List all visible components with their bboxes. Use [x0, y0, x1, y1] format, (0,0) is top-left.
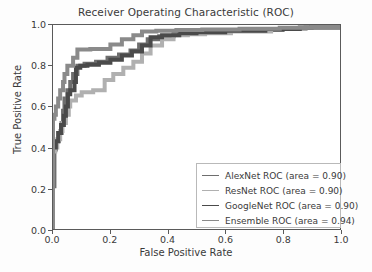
- x-tick-mark: [52, 230, 53, 234]
- chart-title: Receiver Operating Characteristic (ROC): [0, 6, 372, 18]
- y-axis-label: True Positive Rate: [12, 7, 23, 213]
- x-axis-label: False Positive Rate: [0, 247, 372, 258]
- x-tick-label: 0.8: [276, 234, 291, 245]
- x-tick-label: 0.2: [102, 234, 117, 245]
- legend-label: GoogleNet ROC (area = 0.90): [225, 201, 358, 211]
- y-tick-mark: [48, 65, 52, 66]
- y-tick-mark: [48, 106, 52, 107]
- x-tick-label: 0.0: [44, 234, 59, 245]
- legend-line-swatch: [202, 220, 219, 221]
- legend-item-3[interactable]: Ensemble ROC (area = 0.94): [202, 213, 335, 228]
- legend-line-swatch: [202, 205, 219, 206]
- y-tick-label: 0.0: [16, 225, 46, 236]
- legend-item-1[interactable]: ResNet ROC (area = 0.90): [202, 183, 335, 198]
- legend-item-2[interactable]: GoogleNet ROC (area = 0.90): [202, 198, 335, 213]
- legend-label: ResNet ROC (area = 0.90): [225, 186, 343, 196]
- legend-line-swatch: [202, 190, 219, 191]
- x-tick-label: 0.4: [160, 234, 175, 245]
- x-tick-label: 0.6: [218, 234, 233, 245]
- x-tick-mark: [283, 230, 284, 234]
- y-tick-mark: [48, 230, 52, 231]
- legend-item-0[interactable]: AlexNet ROC (area = 0.90): [202, 168, 335, 183]
- x-tick-mark: [341, 230, 342, 234]
- legend-line-swatch: [202, 175, 219, 176]
- x-tick-mark: [110, 230, 111, 234]
- x-tick-mark: [225, 230, 226, 234]
- chart-legend: AlexNet ROC (area = 0.90)ResNet ROC (are…: [196, 163, 341, 228]
- y-tick-mark: [48, 24, 52, 25]
- y-tick-mark: [48, 189, 52, 190]
- y-tick-mark: [48, 148, 52, 149]
- roc-chart-figure: Receiver Operating Characteristic (ROC) …: [0, 0, 372, 272]
- legend-label: AlexNet ROC (area = 0.90): [225, 171, 346, 181]
- legend-label: Ensemble ROC (area = 0.94): [225, 216, 355, 226]
- x-tick-mark: [168, 230, 169, 234]
- x-tick-label: 1.0: [333, 234, 348, 245]
